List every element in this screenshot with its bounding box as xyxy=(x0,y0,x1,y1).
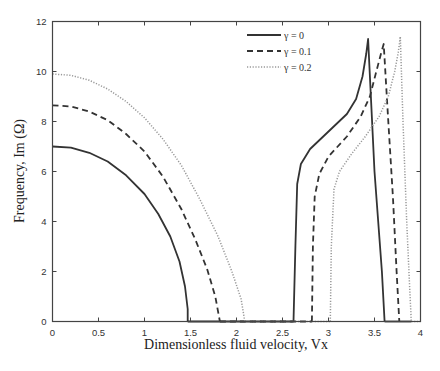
x-tick-label: 3.5 xyxy=(368,327,381,338)
x-tick-label: 0 xyxy=(50,327,55,338)
x-tick-label: 1 xyxy=(142,327,147,338)
series-line-1 xyxy=(53,105,220,321)
legend-label: γ = 0.2 xyxy=(283,62,312,73)
plot-area xyxy=(53,37,421,322)
x-axis-ticks: 00.511.522.533.54 xyxy=(50,22,423,338)
x-tick-label: 2.5 xyxy=(276,327,289,338)
axes-frame xyxy=(53,22,421,322)
y-tick-label: 2 xyxy=(41,266,46,277)
y-tick-label: 6 xyxy=(41,166,46,177)
legend-label: γ = 0 xyxy=(283,30,304,41)
y-tick-label: 4 xyxy=(41,216,46,227)
legend: γ = 0γ = 0.1γ = 0.2 xyxy=(247,30,312,73)
legend-label: γ = 0.1 xyxy=(283,46,312,57)
y-axis-ticks: 024681012 xyxy=(36,16,421,327)
series-line-2 xyxy=(53,74,245,322)
x-tick-label: 2 xyxy=(234,327,239,338)
y-tick-label: 8 xyxy=(41,116,46,127)
y-axis-label: Frequency, Im (Ω) xyxy=(12,119,28,223)
series-line-0 xyxy=(53,147,188,322)
y-tick-label: 10 xyxy=(36,66,47,77)
x-tick-label: 3 xyxy=(326,327,331,338)
chart: 00.511.522.533.54 024681012 γ = 0γ = 0.1… xyxy=(0,0,440,371)
x-axis-label: Dimensionless fluid velocity, Vx xyxy=(144,337,328,352)
x-tick-label: 4 xyxy=(418,327,423,338)
series-line-1 xyxy=(312,44,399,322)
series-line-0 xyxy=(294,39,385,322)
x-tick-label: 0.5 xyxy=(92,327,105,338)
y-tick-label: 0 xyxy=(41,316,46,327)
x-tick-label: 1.5 xyxy=(184,327,197,338)
y-tick-label: 12 xyxy=(36,16,47,27)
